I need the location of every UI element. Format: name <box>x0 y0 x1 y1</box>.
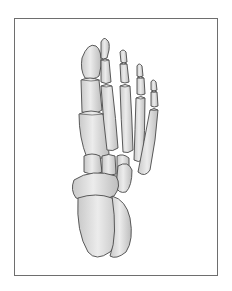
calcaneus <box>78 195 132 257</box>
third-toe-bones <box>120 50 133 153</box>
foot-skeleton-illustration <box>0 0 232 291</box>
